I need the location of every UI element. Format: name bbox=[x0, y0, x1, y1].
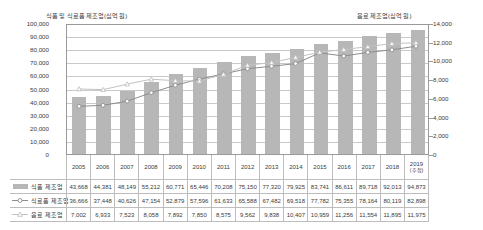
table-cell: 10,407 bbox=[283, 208, 307, 221]
table-cell: 11,975 bbox=[404, 208, 428, 221]
triangle-marker bbox=[293, 55, 298, 59]
table-cell: 94,873 bbox=[404, 180, 428, 193]
x-axis-label-year: 2010 bbox=[193, 164, 206, 171]
triangle-marker bbox=[341, 47, 346, 51]
x-axis-label-year: 2009 bbox=[168, 164, 181, 171]
table-cell: 47,154 bbox=[138, 194, 162, 207]
x-axis-label: 2019(추정) bbox=[404, 155, 428, 179]
right-axis-tick-mark bbox=[429, 80, 433, 81]
bar-swatch-fill bbox=[13, 184, 28, 189]
table-cell: 80,119 bbox=[380, 194, 404, 207]
table-cell: 61,633 bbox=[211, 194, 235, 207]
circle-marker bbox=[342, 54, 346, 58]
table-cell: 82,898 bbox=[404, 194, 428, 207]
left-axis-title: 식품 및 식료품 제조업(십억 원) bbox=[46, 11, 127, 20]
circle-marker bbox=[125, 99, 129, 103]
legend-entry: 음료 제조업 bbox=[10, 208, 66, 221]
right-axis-tick-label: 0 bbox=[433, 151, 483, 158]
circle-marker bbox=[294, 62, 298, 66]
table-cell: 40,626 bbox=[114, 194, 138, 207]
table-row: 식료품 제조업36,66637,44840,62647,15452,87957,… bbox=[10, 194, 429, 208]
left-axis-tick-label: 100,000 bbox=[0, 20, 49, 27]
table-row-values: 36,66637,44840,62647,15452,87957,59661,6… bbox=[66, 194, 429, 207]
right-axis-tick-label: 14,000 bbox=[433, 20, 483, 27]
x-axis-label-year: 2014 bbox=[289, 164, 302, 171]
table-cell: 43,668 bbox=[66, 180, 90, 193]
table-cell: 65,446 bbox=[187, 180, 211, 193]
legend-label: 식품 제조업 bbox=[31, 182, 63, 191]
circle-marker bbox=[101, 103, 105, 107]
left-axis-tick-label: 30,000 bbox=[0, 112, 49, 119]
table-cell: 11,895 bbox=[380, 208, 404, 221]
x-axis-label: 2010 bbox=[187, 155, 211, 179]
table-cell: 75,355 bbox=[332, 194, 356, 207]
table-cell: 86,611 bbox=[332, 180, 356, 193]
right-axis-tick-label: 6,000 bbox=[433, 95, 483, 102]
table-cell: 44,381 bbox=[90, 180, 114, 193]
table-cell: 70,208 bbox=[211, 180, 235, 193]
x-axis-label: 2007 bbox=[114, 155, 138, 179]
table-cell: 77,320 bbox=[259, 180, 283, 193]
table-cell: 79,925 bbox=[283, 180, 307, 193]
table-row-values: 7,0026,9337,5238,0587,8927,8508,5759,562… bbox=[66, 208, 429, 221]
table-row-values: 43,66844,38148,14955,21260,77165,44670,2… bbox=[66, 180, 429, 193]
data-table: 식품 제조업43,66844,38148,14955,21260,77165,4… bbox=[10, 179, 429, 222]
right-axis-tick-mark bbox=[429, 61, 433, 62]
table-cell: 7,523 bbox=[114, 208, 138, 221]
right-axis-title: 음료 제조업(십억 원) bbox=[357, 11, 411, 20]
right-axis-tick-mark bbox=[429, 43, 433, 44]
x-axis-label-year: 2013 bbox=[265, 164, 278, 171]
x-axis-label-year: 2015 bbox=[313, 164, 326, 171]
x-axis-label: 2017 bbox=[356, 155, 380, 179]
table-cell: 9,838 bbox=[259, 208, 283, 221]
triangle-marker bbox=[101, 87, 106, 91]
left-axis-tick-label: 50,000 bbox=[0, 86, 49, 93]
table-cell: 60,771 bbox=[163, 180, 187, 193]
table-cell: 11,256 bbox=[332, 208, 356, 221]
table-cell: 77,782 bbox=[307, 194, 331, 207]
table-cell: 78,164 bbox=[356, 194, 380, 207]
right-axis-tick-label: 12,000 bbox=[433, 39, 483, 46]
right-axis-tick-mark bbox=[429, 136, 433, 137]
circle-marker bbox=[390, 48, 394, 52]
x-axis-label: 2018 bbox=[380, 155, 404, 179]
left-axis-tick-label: 70,000 bbox=[0, 59, 49, 66]
table-cell: 75,150 bbox=[235, 180, 259, 193]
plot-area bbox=[66, 24, 429, 155]
table-cell: 65,588 bbox=[235, 194, 259, 207]
left-axis-tick-label: 10,000 bbox=[0, 138, 49, 145]
right-axis-tick-label: 2,000 bbox=[433, 132, 483, 139]
table-cell: 57,596 bbox=[187, 194, 211, 207]
table-cell: 11,554 bbox=[356, 208, 380, 221]
table-cell: 89,718 bbox=[356, 180, 380, 193]
table-cell: 7,892 bbox=[163, 208, 187, 221]
x-axis-label: 2015 bbox=[307, 155, 331, 179]
legend-label: 식료품 제조업 bbox=[31, 196, 69, 205]
table-cell: 10,959 bbox=[307, 208, 331, 221]
right-axis-tick-mark bbox=[429, 24, 433, 25]
x-axis-label-year: 2007 bbox=[120, 164, 133, 171]
table-cell: 7,002 bbox=[66, 208, 90, 221]
triangle-marker bbox=[173, 78, 178, 82]
x-axis-label-year: 2017 bbox=[362, 164, 375, 171]
legend-entry: 식품 제조업 bbox=[10, 180, 66, 193]
left-axis-tick-label: 60,000 bbox=[0, 72, 49, 79]
table-cell: 48,149 bbox=[114, 180, 138, 193]
left-axis-tick-label: 90,000 bbox=[0, 33, 49, 40]
series-line bbox=[79, 46, 416, 106]
triangle-marker bbox=[414, 41, 419, 45]
legend-label: 음료 제조업 bbox=[31, 210, 63, 219]
x-axis-label-year: 2016 bbox=[337, 164, 350, 171]
x-axis-label-year: 2008 bbox=[144, 164, 157, 171]
x-axis-labels: 2005200620072008200920102011201220132014… bbox=[66, 155, 429, 179]
triangle-marker bbox=[245, 63, 250, 67]
right-axis-tick-mark bbox=[429, 99, 433, 100]
left-axis-tick-label: 40,000 bbox=[0, 99, 49, 106]
triangle-marker bbox=[269, 60, 274, 64]
line-circle-swatch-icon bbox=[12, 195, 28, 206]
triangle-marker bbox=[125, 82, 130, 86]
table-cell: 69,518 bbox=[283, 194, 307, 207]
triangle-marker bbox=[390, 41, 395, 45]
table-cell: 37,448 bbox=[90, 194, 114, 207]
table-cell: 8,058 bbox=[138, 208, 162, 221]
